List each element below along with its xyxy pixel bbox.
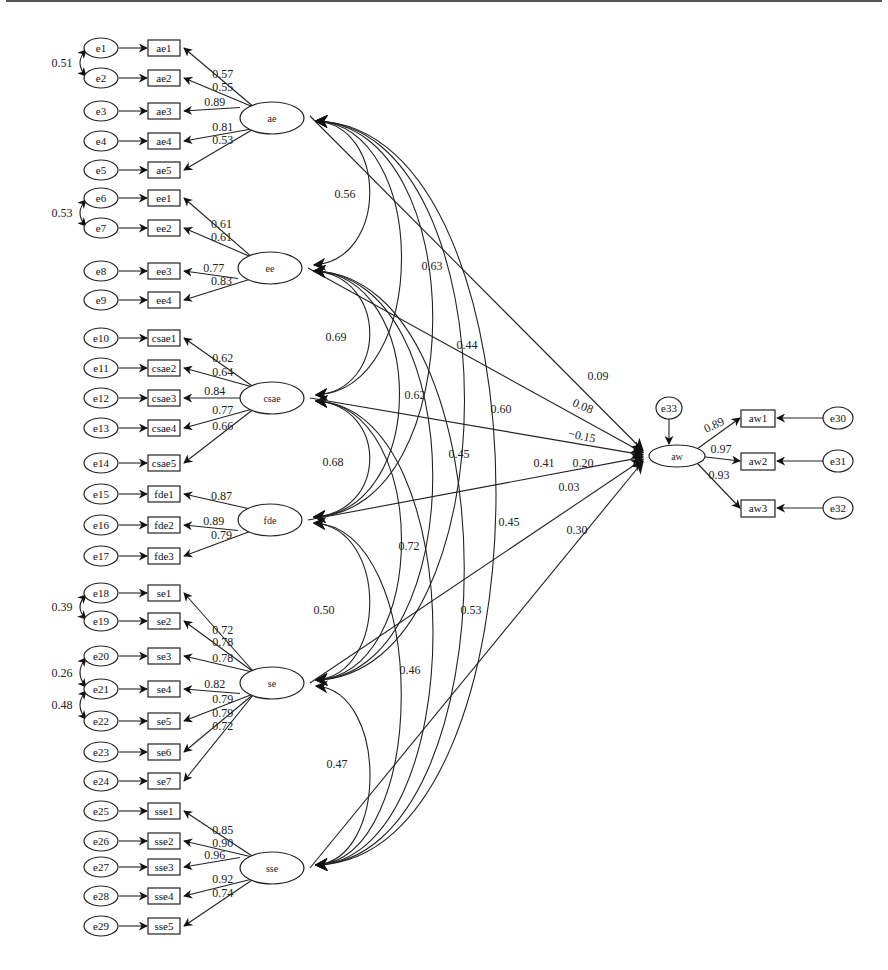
observed-indicator-label: ee4 — [156, 294, 172, 306]
observed-indicator-label: fde2 — [154, 519, 174, 531]
error-term-label: e9 — [96, 294, 107, 306]
loading-value: 0.81 — [212, 120, 233, 134]
error-term-label: e15 — [93, 488, 109, 500]
structural-path-arrow — [308, 268, 643, 453]
latent-correlation-arc — [316, 121, 465, 680]
structural-path-arrow — [310, 459, 643, 683]
observed-indicator-label: se1 — [157, 587, 172, 599]
observed-indicator-label: se2 — [157, 615, 172, 627]
latent-csae-label: csae — [263, 393, 281, 404]
latent-correlation-value: 0.62 — [405, 388, 426, 402]
latent-correlation-value: 0.68 — [323, 455, 344, 469]
latent-correlation-value: 0.50 — [314, 603, 335, 617]
error-term-label: e11 — [93, 362, 108, 374]
loading-value: 0.84 — [204, 384, 225, 398]
observed-indicator-label: csae1 — [152, 332, 176, 344]
latent-correlation-value: 0.72 — [399, 539, 420, 553]
error-term-label: e5 — [96, 164, 107, 176]
outcome-loading-value: 0.93 — [709, 468, 730, 482]
observed-indicator-label: se4 — [157, 683, 172, 695]
observed-indicator-label: fde1 — [154, 488, 174, 500]
loading-value: 0.83 — [211, 274, 232, 288]
error-term-label: e21 — [93, 683, 109, 695]
latent-se-label: se — [268, 678, 277, 689]
structural-path-value: 0.30 — [567, 523, 588, 537]
error-term-label: e8 — [96, 265, 107, 277]
error-term-label: e4 — [96, 135, 107, 147]
loading-value: 0.89 — [204, 95, 225, 109]
outcome-error-label: e32 — [830, 502, 846, 514]
latent-correlation-value: 0.44 — [457, 338, 478, 352]
latent-correlation-value: 0.56 — [335, 187, 356, 201]
disturbance-e33-label: e33 — [661, 402, 677, 414]
loading-value: 0.72 — [212, 719, 233, 733]
error-covariance-value: 0.53 — [52, 206, 73, 220]
observed-indicator-label: ee2 — [156, 222, 171, 234]
loading-value: 0.96 — [204, 848, 225, 862]
structural-path-value: 0.09 — [588, 369, 609, 383]
latent-correlation-value: 0.60 — [491, 402, 512, 416]
loading-value: 0.57 — [212, 67, 233, 81]
observed-indicator-label: ee1 — [156, 192, 171, 204]
error-term-label: e10 — [93, 332, 109, 344]
loading-value: 0.64 — [212, 365, 233, 379]
loading-value: 0.62 — [212, 351, 233, 365]
error-term-label: e2 — [96, 72, 106, 84]
error-term-label: e22 — [93, 715, 109, 727]
observed-indicator-label: sse3 — [155, 861, 174, 873]
latent-correlation-arc — [316, 121, 402, 395]
error-term-label: e29 — [93, 920, 109, 932]
latent-correlation-arc — [314, 523, 370, 680]
loading-value: 0.74 — [212, 886, 233, 900]
error-term-label: e14 — [93, 457, 109, 469]
observed-indicator-label: ae2 — [156, 72, 171, 84]
outcome-loading-value: 0.89 — [702, 414, 727, 436]
observed-indicator-label: se6 — [157, 746, 172, 758]
latent-correlation-value: 0.41 — [534, 456, 555, 470]
observed-indicator-label: csae3 — [152, 392, 177, 404]
loading-value: 0.77 — [203, 261, 224, 275]
latent-aw-label: aw — [671, 451, 683, 462]
error-term-label: e16 — [93, 519, 109, 531]
error-covariance-arrow — [80, 50, 86, 76]
loading-value: 0.79 — [212, 692, 233, 706]
latent-correlation-value: 0.63 — [422, 259, 443, 273]
observed-indicator-label: se3 — [157, 650, 172, 662]
observed-indicator-label: se7 — [157, 775, 172, 787]
error-term-label: e27 — [93, 861, 109, 873]
observed-indicator-label: ee3 — [156, 265, 172, 277]
loading-value: 0.77 — [212, 403, 233, 417]
error-covariance-arrow — [80, 200, 86, 226]
error-term-label: e25 — [93, 805, 109, 817]
outcome-error-label: e30 — [830, 412, 846, 424]
loading-value: 0.78 — [212, 635, 233, 649]
latent-correlation-value: 0.46 — [400, 663, 421, 677]
structural-path-arrow — [310, 462, 643, 869]
loading-value: 0.61 — [211, 217, 232, 231]
structural-path-value: 0.03 — [559, 480, 580, 494]
error-covariance-arrow — [80, 658, 86, 687]
loading-value: 0.61 — [211, 230, 232, 244]
error-term-label: e28 — [93, 890, 109, 902]
outcome-loading-value: 0.97 — [711, 442, 732, 456]
latent-correlation-value: 0.47 — [327, 757, 348, 771]
latent-correlation-arc — [316, 121, 496, 865]
error-covariance-arrow — [80, 691, 86, 719]
observed-indicator-label: ae1 — [156, 42, 171, 54]
latent-ae-label: ae — [268, 113, 277, 124]
latent-correlation-value: 0.45 — [449, 447, 470, 461]
observed-indicator-label: se5 — [157, 715, 172, 727]
observed-indicator-label: ae4 — [156, 135, 172, 147]
outcome-indicator-label: aw3 — [749, 502, 768, 514]
loading-value: 0.89 — [203, 514, 224, 528]
observed-indicator-label: csae5 — [152, 457, 177, 469]
loading-value: 0.66 — [212, 419, 233, 433]
error-covariance-value: 0.39 — [52, 600, 73, 614]
loading-value: 0.79 — [212, 706, 233, 720]
observed-indicator-label: ae5 — [156, 164, 172, 176]
edges-layer — [80, 48, 824, 926]
outcome-indicator-label: aw1 — [749, 412, 767, 424]
latent-correlation-value: 0.69 — [326, 330, 347, 344]
loading-value: 0.87 — [211, 489, 232, 503]
error-covariance-value: 0.51 — [52, 56, 73, 70]
